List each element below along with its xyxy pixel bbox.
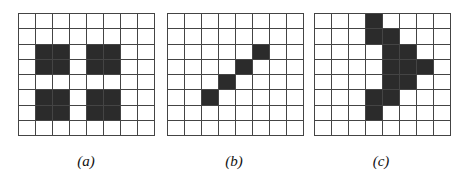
empty-cell	[253, 90, 270, 105]
empty-cell	[332, 75, 349, 90]
empty-cell	[253, 106, 270, 121]
empty-cell	[383, 121, 400, 136]
caption-a: (a)	[56, 153, 116, 170]
empty-cell	[70, 14, 87, 29]
empty-cell	[219, 45, 236, 60]
filled-cell	[383, 60, 400, 75]
empty-cell	[104, 29, 121, 44]
empty-cell	[19, 90, 36, 105]
empty-cell	[53, 121, 70, 136]
empty-cell	[287, 29, 304, 44]
grid-panel-c	[314, 13, 451, 136]
empty-cell	[315, 75, 332, 90]
empty-cell	[349, 75, 366, 90]
filled-cell	[366, 29, 383, 44]
empty-cell	[287, 60, 304, 75]
empty-cell	[332, 29, 349, 44]
empty-cell	[168, 29, 185, 44]
filled-cell	[53, 90, 70, 105]
empty-cell	[270, 106, 287, 121]
empty-cell	[332, 106, 349, 121]
empty-cell	[270, 75, 287, 90]
empty-cell	[332, 14, 349, 29]
empty-cell	[219, 121, 236, 136]
empty-cell	[104, 14, 121, 29]
empty-cell	[270, 14, 287, 29]
filled-cell	[36, 90, 53, 105]
empty-cell	[168, 45, 185, 60]
empty-cell	[70, 75, 87, 90]
empty-cell	[121, 14, 138, 29]
empty-cell	[253, 75, 270, 90]
empty-cell	[434, 75, 451, 90]
empty-cell	[168, 121, 185, 136]
empty-cell	[434, 106, 451, 121]
empty-cell	[138, 45, 155, 60]
empty-cell	[219, 60, 236, 75]
filled-cell	[366, 14, 383, 29]
empty-cell	[349, 60, 366, 75]
empty-cell	[138, 29, 155, 44]
empty-cell	[270, 60, 287, 75]
empty-cell	[36, 14, 53, 29]
empty-cell	[417, 121, 434, 136]
caption-c: (c)	[351, 153, 411, 170]
caption-b: (b)	[204, 153, 264, 170]
empty-cell	[236, 106, 253, 121]
empty-cell	[87, 14, 104, 29]
empty-cell	[349, 90, 366, 105]
empty-cell	[202, 14, 219, 29]
empty-cell	[366, 60, 383, 75]
empty-cell	[417, 29, 434, 44]
empty-cell	[400, 121, 417, 136]
filled-cell	[36, 60, 53, 75]
empty-cell	[168, 90, 185, 105]
empty-cell	[219, 29, 236, 44]
empty-cell	[19, 29, 36, 44]
empty-cell	[202, 45, 219, 60]
empty-cell	[138, 121, 155, 136]
empty-cell	[287, 45, 304, 60]
empty-cell	[315, 45, 332, 60]
empty-cell	[236, 90, 253, 105]
empty-cell	[202, 75, 219, 90]
empty-cell	[104, 121, 121, 136]
empty-cell	[168, 106, 185, 121]
empty-cell	[185, 29, 202, 44]
filled-cell	[383, 29, 400, 44]
empty-cell	[70, 121, 87, 136]
empty-cell	[236, 121, 253, 136]
empty-cell	[138, 14, 155, 29]
empty-cell	[185, 90, 202, 105]
empty-cell	[138, 75, 155, 90]
empty-cell	[36, 75, 53, 90]
empty-cell	[253, 121, 270, 136]
empty-cell	[121, 106, 138, 121]
filled-cell	[53, 45, 70, 60]
empty-cell	[87, 121, 104, 136]
empty-cell	[202, 29, 219, 44]
grid-panel-b	[167, 13, 304, 136]
empty-cell	[70, 106, 87, 121]
filled-cell	[104, 60, 121, 75]
empty-cell	[121, 60, 138, 75]
filled-cell	[236, 60, 253, 75]
empty-cell	[185, 106, 202, 121]
empty-cell	[185, 14, 202, 29]
filled-cell	[366, 90, 383, 105]
empty-cell	[168, 60, 185, 75]
empty-cell	[253, 14, 270, 29]
empty-cell	[270, 29, 287, 44]
empty-cell	[87, 29, 104, 44]
filled-cell	[53, 106, 70, 121]
empty-cell	[270, 45, 287, 60]
empty-cell	[138, 106, 155, 121]
filled-cell	[383, 75, 400, 90]
empty-cell	[349, 106, 366, 121]
empty-cell	[236, 29, 253, 44]
empty-cell	[202, 60, 219, 75]
empty-cell	[434, 60, 451, 75]
empty-cell	[287, 121, 304, 136]
empty-cell	[185, 45, 202, 60]
empty-cell	[315, 106, 332, 121]
